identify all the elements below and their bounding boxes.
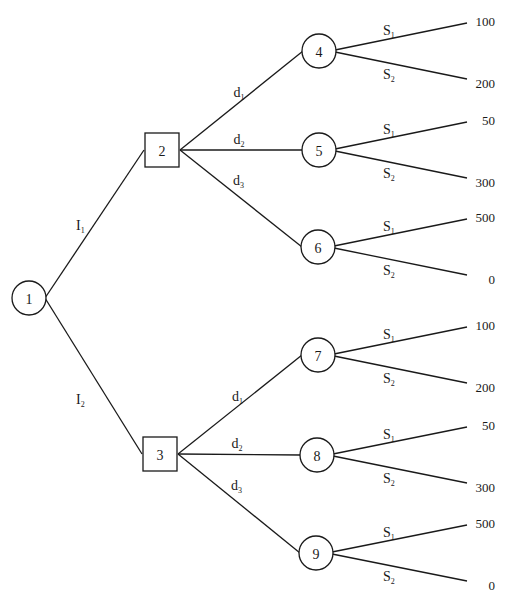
state-label-6-2: S2 xyxy=(383,263,395,280)
outcome-branch-8-1 xyxy=(333,427,467,454)
branch-label-1-3: I2 xyxy=(76,392,85,409)
chance-node-6: 6 xyxy=(301,230,335,264)
node-label: 9 xyxy=(313,547,320,562)
node-label: 5 xyxy=(316,144,323,159)
outcome-branch-7-2 xyxy=(334,356,467,383)
branch-3-9 xyxy=(178,454,300,553)
state-label-7-1: S1 xyxy=(383,327,395,344)
chance-node-7: 7 xyxy=(301,338,335,372)
outcome-branch-7-1 xyxy=(334,327,467,354)
branch-label-2-5: d2 xyxy=(234,132,245,149)
payoff-value: 0 xyxy=(489,578,496,593)
payoff-value: 200 xyxy=(476,380,496,395)
node-label: 4 xyxy=(316,45,323,60)
state-label-9-2: S2 xyxy=(383,569,395,586)
node-label: 6 xyxy=(315,241,322,256)
outcome-branch-5-1 xyxy=(335,122,467,149)
payoff-value: 200 xyxy=(476,76,496,91)
branch-label-2-4: d1 xyxy=(234,85,245,102)
payoff-value: 500 xyxy=(476,516,496,531)
outcome-branch-8-2 xyxy=(333,456,467,483)
state-label-7-2: S2 xyxy=(383,371,395,388)
branch-label-3-8: d2 xyxy=(232,436,243,453)
outcome-branch-9-2 xyxy=(332,554,467,581)
state-label-9-1: S1 xyxy=(383,525,395,542)
payoff-value: 100 xyxy=(476,14,496,29)
branch-label-2-6: d3 xyxy=(233,173,244,190)
node-label: 2 xyxy=(159,144,166,159)
node-label: 1 xyxy=(26,292,33,307)
outcome-branch-6-2 xyxy=(334,248,467,275)
branch-2-6 xyxy=(180,150,302,247)
node-label: 8 xyxy=(314,449,321,464)
decision-node-2: 2 xyxy=(145,133,179,167)
outcome-branch-6-1 xyxy=(334,219,467,246)
chance-node-9: 9 xyxy=(299,536,333,570)
outcome-branch-4-2 xyxy=(335,52,467,79)
payoff-value: 0 xyxy=(489,272,496,287)
outcome-branch-5-2 xyxy=(335,151,467,178)
chance-node-8: 8 xyxy=(300,438,334,472)
branch-label-3-9: d3 xyxy=(231,478,242,495)
payoff-value: 300 xyxy=(476,480,496,495)
state-label-6-1: S1 xyxy=(383,219,395,236)
outcome-branch-9-1 xyxy=(332,525,467,552)
chance-node-4: 4 xyxy=(302,34,336,68)
branch-label-1-2: I1 xyxy=(76,218,85,235)
decision-node-3: 3 xyxy=(143,437,177,471)
branch-3-8 xyxy=(178,454,301,455)
branch-label-3-7: d1 xyxy=(232,389,243,406)
branch-1-3 xyxy=(45,298,142,454)
payoff-value: 300 xyxy=(476,175,496,190)
state-label-5-1: S1 xyxy=(383,122,395,139)
decision-tree: I1I2d1d2d3d1d2d3S1100S2200S150S2300S1500… xyxy=(0,0,510,605)
chance-node-1: 1 xyxy=(12,281,46,315)
payoff-value: 100 xyxy=(476,318,496,333)
state-label-4-2: S2 xyxy=(383,67,395,84)
state-label-8-1: S1 xyxy=(383,427,395,444)
node-label: 3 xyxy=(157,448,164,463)
state-label-4-1: S1 xyxy=(383,23,395,40)
payoff-value: 50 xyxy=(482,113,495,128)
state-label-5-2: S2 xyxy=(383,166,395,183)
node-label: 7 xyxy=(315,349,322,364)
payoff-value: 50 xyxy=(482,418,495,433)
state-label-8-2: S2 xyxy=(383,471,395,488)
branch-1-2 xyxy=(45,150,144,298)
payoff-value: 500 xyxy=(476,210,496,225)
outcome-branch-4-1 xyxy=(335,23,467,50)
chance-node-5: 5 xyxy=(302,133,336,167)
